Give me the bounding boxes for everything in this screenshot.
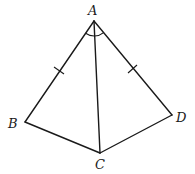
vertex-label-d: D [175, 110, 187, 125]
vertex-label-b: B [7, 116, 18, 131]
segment-bc [25, 122, 100, 153]
segment-cd [100, 115, 172, 153]
segment-ac [94, 21, 100, 153]
vertex-label-a: A [87, 3, 97, 18]
vertex-label-c: C [95, 157, 105, 172]
geometry-diagram: A B C D [0, 0, 195, 174]
angle-arc-cad [95, 33, 104, 36]
angle-arc-bac [86, 33, 95, 36]
